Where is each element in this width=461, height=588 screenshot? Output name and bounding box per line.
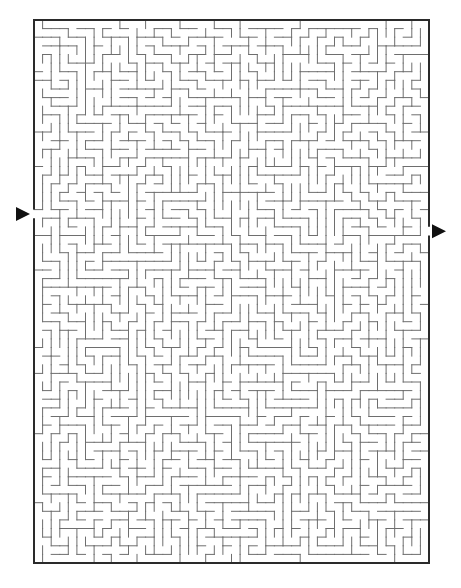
entrance-arrow-icon: [16, 207, 30, 221]
maze-puzzle: Maze Start Finish: [0, 0, 461, 588]
exit-arrow-icon: [432, 224, 446, 238]
maze-grid[interactable]: [0, 0, 461, 588]
maze-walls: [34, 20, 429, 563]
